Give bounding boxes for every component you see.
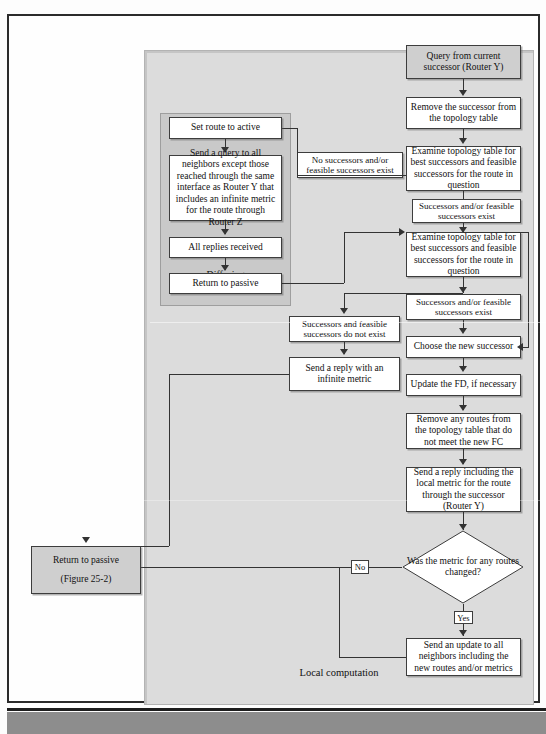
connector-to-return-passive-final (115, 567, 351, 568)
node-return-to-passive: Return to passive (169, 273, 282, 294)
node-remove-successor: Remove the successor from the topology t… (406, 97, 521, 129)
arrow-query-to-remove (459, 90, 467, 96)
arrow-choose-to-updatefd (459, 366, 467, 372)
edge-label-yes: Yes (454, 611, 473, 624)
arrow-removeroutes-to-sendreply (459, 459, 467, 465)
arrow-remove-to-examine1 (459, 138, 467, 144)
node-successors-exist-2: Successors and/or feasible successors ex… (406, 294, 521, 320)
connector-returnpassive-right (282, 283, 344, 284)
arrow-branch-to-donotexist (340, 308, 348, 314)
node-examine-topology-table-2: Examine topology table for best successo… (406, 232, 521, 277)
connector-no-successors-to-setactive (280, 128, 297, 129)
node-send-reply-local-metric: Send a reply including the local metric … (406, 467, 521, 512)
connector-feedback-vertical (528, 232, 529, 347)
arrow-sendquery-to-allreplies (221, 229, 229, 235)
return-to-passive-final-label: Return to passive (53, 555, 119, 567)
connector-examine2-branch-horizontal (344, 293, 463, 294)
node-successors-exist-1: Successors and/or feasible successors ex… (412, 199, 521, 223)
node-send-update-all-neighbors: Send an update to all neighbors includin… (406, 638, 521, 676)
return-to-passive-final-reference: (Figure 25-2) (61, 574, 112, 586)
node-successors-do-not-exist: Successors and feasible successors do no… (289, 316, 400, 342)
connector-sendupdate-to-left-trunk (339, 657, 406, 658)
footer-band (7, 712, 546, 734)
decision-label: Was the metric for any routes changed? (402, 530, 524, 604)
connector-branch-down-to-donotexist (344, 293, 345, 309)
connector-infinite-to-left-trunk (169, 374, 289, 375)
node-query-from-current-successor: Query from current successor (Router Y) (406, 45, 521, 79)
arrow-into-return-passive-final-top (82, 537, 90, 543)
decision-was-metric-changed: Was the metric for any routes changed? (402, 530, 524, 604)
arrow-successors2-to-choose (459, 328, 467, 334)
node-remove-routes-not-meeting-fc: Remove any routes from the topology tabl… (406, 413, 521, 449)
figure-page: Local computation Diffusingcomputation Q… (0, 0, 546, 734)
node-examine-topology-table-1: Examine topology table for best successo… (406, 146, 521, 191)
node-all-replies-received: All replies received (169, 237, 282, 258)
node-return-to-passive-final: Return to passive (Figure 25-2) (31, 546, 141, 594)
edge-label-no: No (351, 560, 369, 574)
connector-feedback-top (463, 232, 528, 233)
arrow-donotexist-to-infinite (340, 349, 348, 355)
node-update-fd: Update the FD, if necessary (406, 374, 521, 396)
node-set-route-to-active: Set route to active (169, 117, 282, 139)
node-choose-new-successor: Choose the new successor (406, 336, 521, 358)
connector-into-examine2 (344, 232, 400, 233)
connector-examine1-to-no-successors (297, 175, 406, 176)
connector-returnpassive-up (344, 232, 345, 283)
connector-left-trunk-vertical (339, 567, 340, 657)
node-send-query-to-all-neighbors: Send a query to all neighbors except tho… (169, 155, 282, 221)
node-send-reply-infinite-metric: Send a reply with an infinite metric (289, 357, 400, 391)
arrow-into-examine2 (399, 228, 405, 236)
arrow-yes-to-sendupdate (459, 630, 467, 636)
page-frame: Local computation Diffusingcomputation Q… (7, 14, 540, 703)
connector-left-trunk-down (169, 374, 170, 546)
connector-no-from-diamond (369, 567, 402, 568)
arrow-allreplies-to-returnpassive (221, 265, 229, 271)
arrow-updatefd-to-removeroutes (459, 405, 467, 411)
arrow-feedback-into-choose (517, 343, 523, 351)
connector-no-successors-up (297, 128, 298, 175)
